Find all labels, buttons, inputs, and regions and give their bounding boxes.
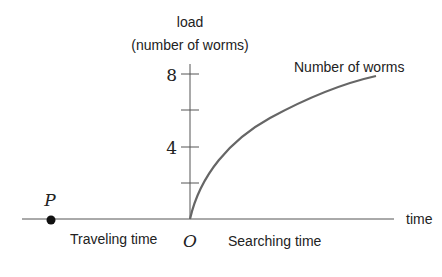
y-axis-label-line1: load — [177, 14, 203, 30]
curve-label: Number of worms — [294, 59, 404, 75]
point-p — [47, 216, 56, 225]
point-p-label: P — [43, 190, 56, 210]
y-tick-label-8: 8 — [166, 65, 177, 85]
traveling-time-label: Traveling time — [70, 231, 158, 247]
x-axis-label: time — [406, 211, 433, 227]
worms-curve — [190, 76, 376, 219]
y-tick-label-4: 4 — [166, 138, 177, 158]
origin-label: O — [183, 231, 197, 251]
chart: load (number of worms) 8 4 Number of wor… — [0, 0, 442, 277]
searching-time-label: Searching time — [228, 233, 322, 249]
y-axis-label-line2: (number of worms) — [131, 37, 248, 53]
